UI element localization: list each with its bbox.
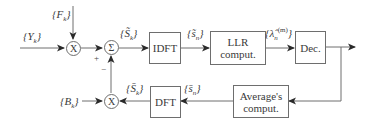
summer-node: Σ — [104, 40, 119, 55]
label-s-tilde-n: {s̃n} — [187, 27, 204, 44]
average-computation-block: Average's comput. — [233, 85, 289, 118]
label-lambda-llr: {λ̂n(m)} — [265, 24, 292, 44]
average-label-line2: comput. — [243, 102, 279, 114]
top-multiplier-node: X — [66, 41, 81, 56]
label-s-tilde-k: {S̃k} — [120, 27, 137, 44]
label-yk: {Yk} — [23, 30, 41, 47]
label-bk: {Bk} — [60, 95, 79, 112]
minus-sign: − — [101, 64, 106, 74]
idft-label: IDFT — [153, 42, 177, 54]
decoder-label: Dec. — [300, 42, 320, 54]
label-s-bar-n: {s̄n} — [184, 82, 201, 99]
sigma-symbol: Σ — [109, 42, 115, 53]
average-label-line1: Average's — [240, 90, 283, 102]
llr-label-line1: LLR — [228, 36, 249, 48]
idft-block: IDFT — [149, 32, 181, 64]
llr-label-line2: comput. — [220, 48, 256, 60]
decoder-block: Dec. — [295, 31, 326, 64]
label-fk: {Fk} — [52, 8, 71, 25]
bottom-multiplier-node: X — [104, 94, 119, 109]
dft-block: DFT — [150, 86, 181, 118]
multiply-symbol: X — [108, 96, 115, 107]
label-s-bar-k: {S̄k} — [126, 82, 143, 99]
multiply-symbol: X — [70, 43, 77, 54]
llr-computation-block: LLR comput. — [210, 31, 266, 65]
dft-label: DFT — [155, 96, 176, 108]
plus-sign: + — [94, 53, 99, 63]
